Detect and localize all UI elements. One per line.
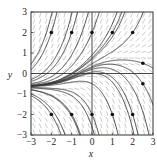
marked-point [90,31,94,35]
slope-segment [64,19,65,24]
slope-segment [99,70,104,71]
slope-segment [45,62,48,66]
y-axis-label: y [7,69,13,80]
slope-segment [93,93,96,97]
slope-segment [93,76,98,77]
slope-segment [106,105,108,110]
slope-segment [106,25,108,30]
slope-segment [137,13,139,18]
marked-point [111,113,115,117]
slope-segment [45,123,47,128]
slope-segment [51,123,53,128]
slope-field-diagram: −3−2−101233210−1−2−3 x y [0,0,157,162]
slope-segment [52,19,53,24]
slope-segment [46,25,47,30]
slope-segment [45,56,48,60]
slope-segment [112,87,115,91]
slope-segment [107,123,108,128]
slope-segment [149,87,152,92]
slope-segment [50,100,54,103]
slope-segment [131,99,133,104]
slope-segment [137,111,139,116]
solution-curve [30,94,67,142]
slope-segment [141,51,146,52]
slope-segment [100,129,101,134]
slope-segment [106,87,109,91]
slope-segment [143,105,145,110]
slope-segment [69,50,71,55]
slope-segment [82,37,84,42]
slope-segment [118,99,120,104]
slope-segment [94,31,96,36]
slope-segment [64,25,65,30]
slope-segment [75,111,78,115]
slope-segment [148,69,152,72]
slope-segment [106,93,109,97]
x-tick-label: −2 [46,137,56,147]
slope-segment [136,81,139,85]
slope-segment [82,111,84,116]
slope-segment [124,31,127,35]
slope-segment [124,19,126,24]
slope-segment [64,43,66,48]
slope-segment [51,43,53,48]
slope-segment [136,38,140,42]
slope-segment [46,13,47,18]
slope-segment [143,93,145,98]
y-tick-label: −1 [17,89,27,99]
slope-segment [99,81,103,84]
slope-segment [111,57,116,58]
slope-segment [100,19,102,24]
slope-segment [149,25,152,29]
slope-segment [88,31,90,36]
slope-segment [87,50,90,54]
y-tick-label: 1 [22,48,27,58]
slope-segment [142,69,146,72]
slope-segment [39,19,40,24]
slope-segment [32,100,36,103]
slope-segment [142,75,145,79]
slope-segment [76,31,78,36]
slope-segment [45,130,47,135]
slope-segment [70,25,72,30]
slope-segment [123,69,127,72]
slope-segment [105,57,110,59]
slope-segment [137,117,138,122]
slope-segment [87,93,91,97]
slope-segment [106,13,108,18]
slope-segment [57,105,60,109]
slope-segment [148,44,152,47]
slope-segment [148,81,151,85]
slope-segment [111,44,115,48]
slope-segment [82,13,83,18]
slope-segment [38,94,43,96]
slope-segment [81,93,85,96]
marked-point [131,113,135,117]
slope-segment [125,13,127,18]
slope-segment [45,50,47,55]
slope-segment [69,69,73,72]
slope-segment [70,123,72,128]
slope-segment [147,51,152,52]
slope-segment [131,13,133,18]
slope-segment [82,117,84,122]
slope-segment [149,13,151,18]
slope-segment [76,37,78,42]
slope-segment [117,51,122,53]
slope-segment [45,117,47,122]
slope-segment [113,129,114,134]
slope-segment [69,99,73,102]
slope-segment [81,56,84,60]
slope-segment [130,38,134,42]
slope-segment [149,123,150,128]
marked-point [111,31,115,35]
slope-segment [69,117,71,122]
slope-segment [87,87,91,90]
y-tick-label: 0 [22,69,27,79]
slope-segment [33,111,36,115]
slope-segment [125,117,126,122]
slope-segment [33,123,35,128]
slope-segment [87,99,90,103]
slope-segment [100,99,102,104]
slope-segment [142,31,145,35]
